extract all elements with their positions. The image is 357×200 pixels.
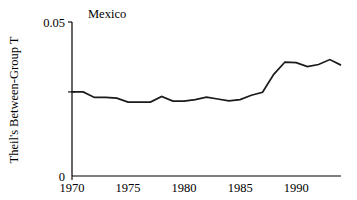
- data-series-group: [72, 60, 341, 103]
- data-line-theil-s-between-group-t: [72, 60, 341, 103]
- line-chart: 0.050 19701975198019851990 Mexico Theil'…: [0, 0, 357, 200]
- y-axis: [68, 22, 75, 176]
- x-tick-label-4: 1990: [284, 181, 309, 195]
- y-tick-label-0: 0.05: [43, 16, 65, 30]
- x-tick-label-3: 1985: [228, 181, 253, 195]
- x-tick-label-0: 1970: [60, 181, 85, 195]
- x-tick-labels: 19701975198019851990: [60, 181, 309, 195]
- chart-title: Mexico: [88, 7, 126, 21]
- x-tick-label-2: 1980: [172, 181, 197, 195]
- x-axis: [72, 176, 341, 180]
- chart-container: 0.050 19701975198019851990 Mexico Theil'…: [0, 0, 357, 200]
- y-axis-title: Theil's Between-Group T: [7, 36, 21, 163]
- x-tick-label-1: 1975: [116, 181, 141, 195]
- y-tick-labels: 0.050: [43, 16, 65, 184]
